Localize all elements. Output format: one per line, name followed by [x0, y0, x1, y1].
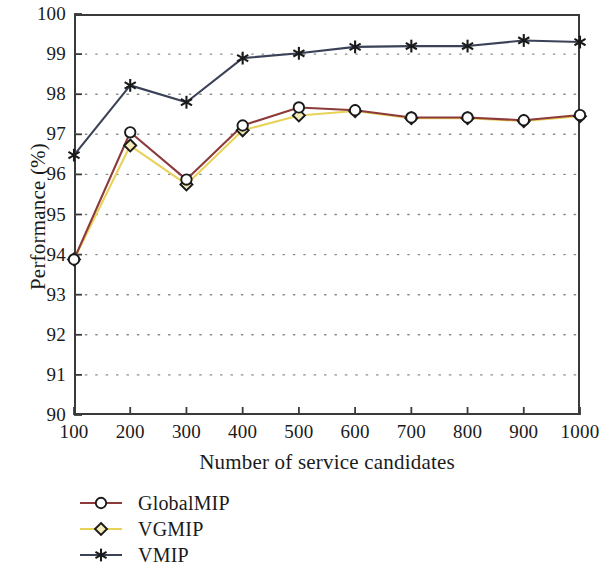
y-tick-99: 99: [10, 44, 66, 63]
legend-label-vgmip: VGMIP: [124, 519, 203, 539]
x-axis-tick-labels: 1002003004005006007008009001000: [0, 422, 614, 448]
y-tick-91: 91: [10, 365, 66, 384]
legend-swatch-vmip: [78, 544, 124, 566]
x-axis-title: Number of service candidates: [74, 450, 580, 475]
plot-area: [74, 14, 580, 415]
legend-label-globalmip: GlobalMIP: [124, 493, 230, 513]
legend-label-vmip: VMIP: [124, 545, 189, 565]
performance-line-chart: 10099989796959493929190 1002003004005006…: [0, 0, 614, 571]
legend-item-globalmip: GlobalMIP: [78, 490, 378, 516]
chart-legend: GlobalMIP VGMIP VMIP: [78, 490, 378, 568]
legend-item-vmip: VMIP: [78, 542, 378, 568]
x-tick-1000: 1000: [545, 422, 614, 441]
legend-swatch-vgmip: [78, 518, 124, 540]
y-tick-100: 100: [10, 4, 66, 23]
legend-swatch-globalmip: [78, 492, 124, 514]
legend-item-vgmip: VGMIP: [78, 516, 378, 542]
y-axis-title: Performance (%): [26, 87, 51, 347]
